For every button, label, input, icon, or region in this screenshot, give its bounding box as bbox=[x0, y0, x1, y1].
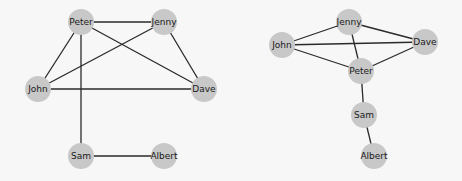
node-label: Dave bbox=[413, 37, 437, 47]
node-dave: Dave bbox=[191, 76, 217, 102]
edge-peter-dave bbox=[81, 22, 204, 89]
node-label: Dave bbox=[192, 84, 216, 94]
edge-jenny-john bbox=[38, 22, 164, 89]
node-albert: Albert bbox=[360, 143, 388, 169]
diagram-canvas: PeterJennyJohnDaveSamAlbertJennyJohnDave… bbox=[0, 0, 462, 181]
node-peter: Peter bbox=[348, 58, 374, 84]
node-sam: Sam bbox=[351, 102, 377, 128]
node-label: Sam bbox=[354, 110, 374, 120]
left-graph: PeterJennyJohnDaveSamAlbert bbox=[25, 9, 217, 169]
node-label: Sam bbox=[71, 151, 91, 161]
node-peter: Peter bbox=[68, 9, 94, 35]
node-label: John bbox=[271, 40, 292, 50]
node-label: Jenny bbox=[151, 17, 178, 27]
node-label: Peter bbox=[349, 66, 373, 76]
node-label: Albert bbox=[150, 151, 178, 161]
node-jenny: Jenny bbox=[151, 9, 178, 35]
node-albert: Albert bbox=[150, 143, 178, 169]
node-john: John bbox=[269, 32, 295, 58]
network-graphs: PeterJennyJohnDaveSamAlbertJennyJohnDave… bbox=[0, 0, 462, 181]
node-label: Peter bbox=[69, 17, 93, 27]
node-john: John bbox=[25, 76, 51, 102]
node-dave: Dave bbox=[412, 29, 438, 55]
node-label: Jenny bbox=[336, 17, 363, 27]
node-label: Albert bbox=[360, 151, 388, 161]
node-label: John bbox=[27, 84, 48, 94]
node-jenny: Jenny bbox=[336, 9, 363, 35]
node-sam: Sam bbox=[68, 143, 94, 169]
right-graph: JennyJohnDavePeterSamAlbert bbox=[269, 9, 438, 169]
